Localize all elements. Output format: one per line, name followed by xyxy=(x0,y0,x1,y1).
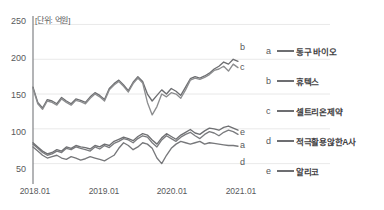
series-line-d xyxy=(33,141,238,163)
series-end-label-a: a xyxy=(240,140,245,150)
y-axis-tick-250: 250 xyxy=(2,16,26,26)
legend-key-b: b xyxy=(266,76,277,86)
legend-item-b[interactable]: b 휴텍스 xyxy=(266,66,382,96)
legend-label-d: 적극활용않한A사 xyxy=(296,135,356,147)
chart-legend: a 동구 바이오 b 휴텍스 c 셀트리온제약 d 적극활용않한A사 e 알리코 xyxy=(266,36,382,186)
legend-item-a[interactable]: a 동구 바이오 xyxy=(266,36,382,66)
legend-label-b: 휴텍스 xyxy=(296,75,319,87)
legend-line-swatch-d xyxy=(277,140,294,142)
legend-item-c[interactable]: c 셀트리온제약 xyxy=(266,96,382,126)
series-end-label-e: e xyxy=(240,127,245,137)
legend-key-d: d xyxy=(266,136,277,146)
series-lines xyxy=(33,59,238,163)
series-line-c xyxy=(33,64,238,115)
legend-key-e: e xyxy=(266,166,277,176)
legend-line-swatch-b xyxy=(277,80,294,82)
unit-note: [단위: 억원] xyxy=(35,14,70,25)
series-end-label-c: c xyxy=(240,62,245,72)
x-axis-tick-2019: 2019.01 xyxy=(81,186,127,196)
legend-line-swatch-e xyxy=(277,170,294,172)
x-axis-tick-2018: 2018.01 xyxy=(12,186,58,196)
y-axis-tick-150: 150 xyxy=(2,90,26,100)
legend-item-e[interactable]: e 알리코 xyxy=(266,156,382,186)
legend-item-d[interactable]: d 적극활용않한A사 xyxy=(266,126,382,156)
y-axis-tick-100: 100 xyxy=(2,127,26,137)
legend-line-swatch-c xyxy=(277,110,294,112)
legend-label-e: 알리코 xyxy=(296,165,319,177)
y-axis-tick-50: 50 xyxy=(2,164,26,174)
legend-label-a: 동구 바이오 xyxy=(296,45,337,57)
line-chart: [단위: 억원] 250 200 150 100 50 2018.01 2019… xyxy=(0,0,384,210)
legend-key-a: a xyxy=(266,46,277,56)
x-axis-tick-2021: 2021.01 xyxy=(218,186,264,196)
series-end-label-b: b xyxy=(240,42,245,52)
legend-label-c: 셀트리온제약 xyxy=(296,105,342,117)
legend-line-swatch-a xyxy=(277,50,294,52)
legend-key-c: c xyxy=(266,106,277,116)
series-end-label-d: d xyxy=(240,157,245,167)
x-axis-tick-2020: 2020.01 xyxy=(149,186,195,196)
y-axis-tick-200: 200 xyxy=(2,53,26,63)
